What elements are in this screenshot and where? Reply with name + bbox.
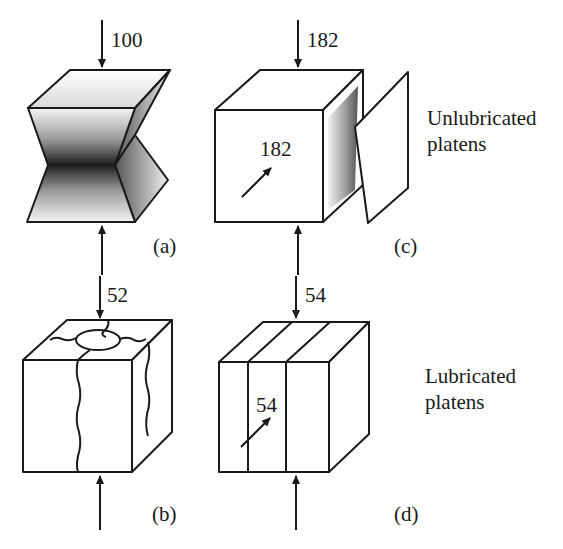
panel-a — [27, 20, 170, 275]
lower-cone-a — [27, 165, 135, 222]
front-face-d — [219, 362, 329, 472]
row-label-lubricated-line1: Lubricated — [425, 364, 516, 388]
panel-b — [23, 276, 172, 530]
row-label-unlubricated-line2: platens — [427, 132, 486, 156]
front-face-c — [215, 110, 323, 222]
panel-c — [215, 20, 408, 275]
load-value-top-d: 54 — [305, 283, 326, 307]
panel-d — [219, 276, 369, 530]
load-value-a: 100 — [111, 28, 143, 52]
row-label-unlubricated-line1: Unlubricated — [427, 106, 537, 130]
panel-label-d: (d) — [394, 502, 419, 526]
load-value-lateral-c: 182 — [260, 137, 292, 161]
upper-cone-a — [28, 108, 135, 165]
load-value-lateral-d: 54 — [256, 393, 277, 417]
figure-canvas: 100 182 182 52 54 54 (a) (c) (b) (d) Unl… — [0, 0, 563, 549]
panel-label-c: (c) — [394, 234, 417, 258]
panel-label-a: (a) — [153, 234, 176, 258]
top-crater-b — [76, 330, 120, 350]
row-label-lubricated-line2: platens — [425, 390, 484, 414]
load-value-b: 52 — [107, 283, 128, 307]
diagram-svg — [0, 0, 563, 549]
load-value-top-c: 182 — [307, 28, 339, 52]
panel-label-b: (b) — [152, 502, 177, 526]
